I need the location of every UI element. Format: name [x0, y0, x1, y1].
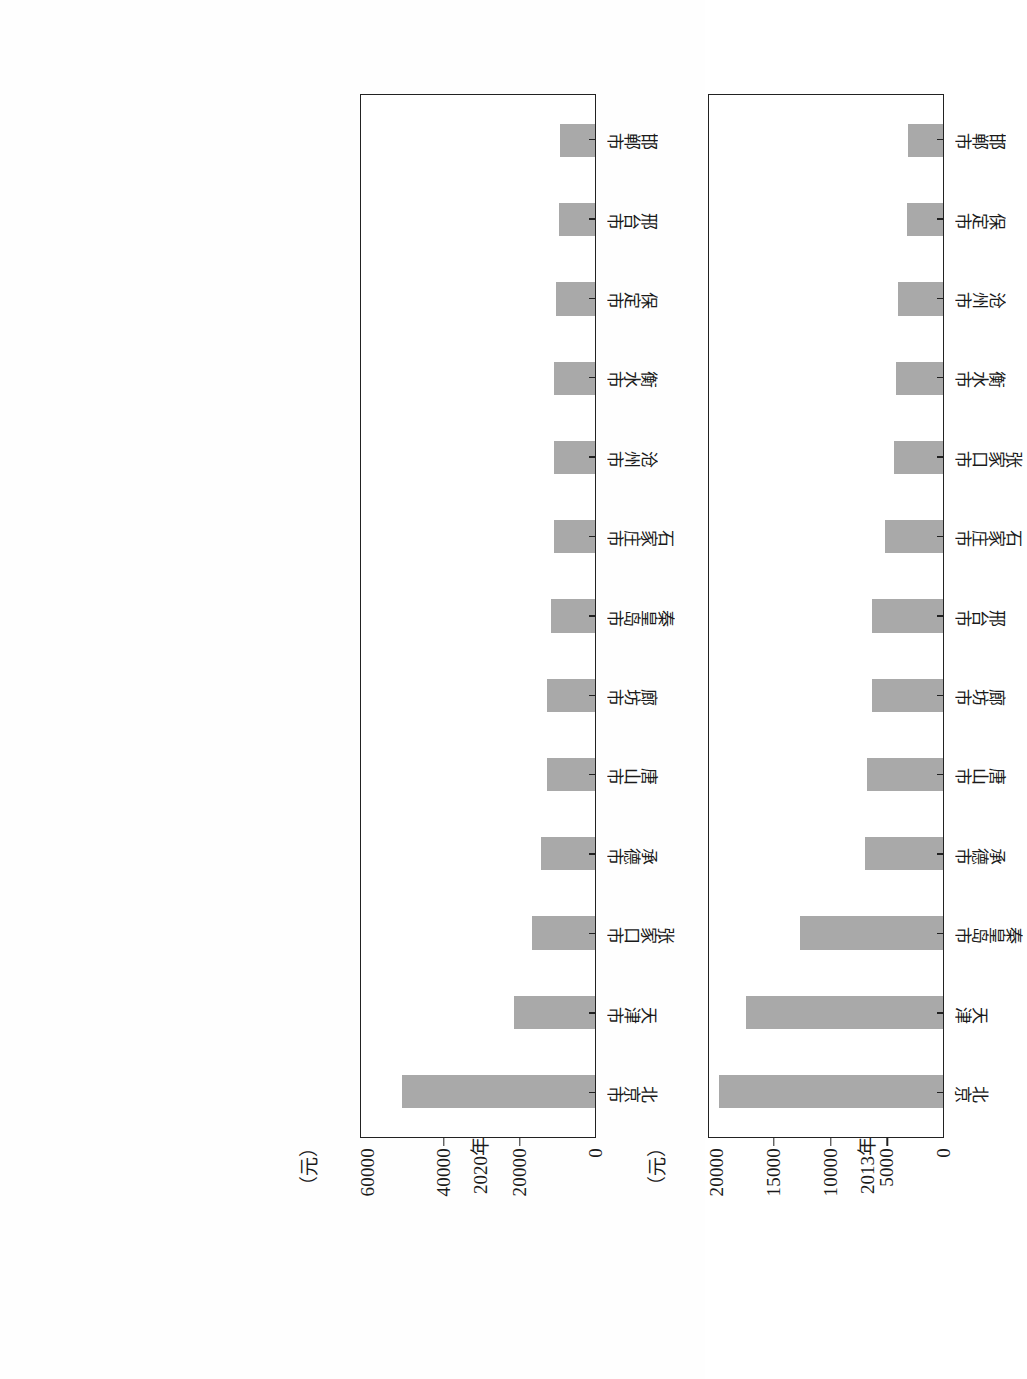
chart-2013-axis-title: 2013年 — [851, 1137, 878, 1194]
x-label-slot: 唐山市 — [598, 735, 682, 814]
y-tick-20000: 20000 — [706, 1138, 728, 1220]
bar-唐山市 — [867, 758, 943, 791]
y-tick-60000: 60000 — [357, 1138, 379, 1220]
x-label-slot: 张家口市 — [598, 894, 682, 973]
bar-slot — [709, 339, 943, 418]
chart-2020-axis-title: 2020年 — [464, 1137, 491, 1194]
bar-slot — [361, 180, 595, 259]
x-label-slot: 保定市 — [946, 179, 1027, 258]
x-label-石家庄市: 石家庄市 — [607, 528, 675, 545]
bar-沧州市 — [898, 282, 943, 315]
bar-slot — [709, 418, 943, 497]
bar-沧州市 — [554, 441, 595, 474]
y-tick-40000: 40000 — [433, 1138, 455, 1220]
bar-slot — [361, 893, 595, 972]
x-label-秦皇岛市: 秦皇岛市 — [607, 607, 675, 624]
y-tick-20000: 20000 — [509, 1138, 531, 1220]
bar-slot — [361, 259, 595, 338]
chart-2020-x-labels: 北京市天津市张家口市承德市唐山市廊坊市秦皇岛市石家庄市沧州市衡水市保定市邢台市邯… — [598, 94, 682, 1138]
x-label-沧州市: 沧州市 — [607, 449, 658, 466]
bar-slot — [361, 339, 595, 418]
bar-slot — [361, 973, 595, 1052]
x-label-唐山市: 唐山市 — [955, 766, 1006, 783]
y-tick-0: 0 — [933, 1138, 955, 1220]
bar-邢台市 — [872, 599, 943, 632]
bar-保定市 — [556, 282, 595, 315]
x-label-邢台市: 邢台市 — [607, 210, 658, 227]
bar-slot — [361, 497, 595, 576]
x-label-slot: 张家口市 — [946, 417, 1027, 496]
x-label-slot: 邯郸市 — [598, 100, 682, 179]
x-label-slot: 邢台市 — [598, 179, 682, 258]
x-label-衡水市: 衡水市 — [607, 369, 658, 386]
bar-北京 — [719, 1075, 943, 1108]
x-label-北京: 北京 — [955, 1084, 989, 1101]
bar-北京市 — [402, 1075, 595, 1108]
x-label-slot: 衡水市 — [946, 338, 1027, 417]
x-label-唐山市: 唐山市 — [607, 766, 658, 783]
x-label-slot: 沧州市 — [946, 259, 1027, 338]
x-label-slot: 秦皇岛市 — [946, 894, 1027, 973]
x-label-slot: 保定市 — [598, 259, 682, 338]
x-label-slot: 廊坊市 — [598, 656, 682, 735]
x-label-保定市: 保定市 — [955, 210, 1006, 227]
y-axis-unit-label: （元） — [294, 1138, 321, 1220]
bar-slot — [709, 576, 943, 655]
bar-slot — [361, 576, 595, 655]
x-label-slot: 邢台市 — [946, 576, 1027, 655]
x-label-slot: 邯郸市 — [946, 100, 1027, 179]
y-tick-5000: 5000 — [876, 1138, 898, 1220]
x-label-slot: 唐山市 — [946, 735, 1027, 814]
bar-slot — [709, 1052, 943, 1131]
chart-2020-bars — [361, 95, 595, 1137]
bar-邯郸市 — [908, 124, 943, 157]
chart-2013-x-labels: 北京天津秦皇岛市承德市唐山市廊坊市邢台市石家庄市张家口市衡水市沧州市保定市邯郸市 — [946, 94, 1027, 1138]
x-label-邯郸市: 邯郸市 — [607, 131, 658, 148]
y-tick-0: 0 — [585, 1138, 607, 1220]
x-label-保定市: 保定市 — [607, 290, 658, 307]
bar-slot — [709, 735, 943, 814]
bar-保定市 — [907, 203, 943, 236]
x-label-廊坊市: 廊坊市 — [955, 687, 1006, 704]
chart-2020-plot-area — [360, 94, 596, 1138]
y-tick-10000: 10000 — [820, 1138, 842, 1220]
bar-邯郸市 — [560, 124, 595, 157]
chart-2013-y-axis: 05000100001500020000（元） — [708, 1138, 944, 1220]
chart-2013: 05000100001500020000（元） 2013年 北京天津秦皇岛市承德… — [700, 80, 1027, 1220]
chart-2020-container: 0200004000060000（元） 2020年 北京市天津市张家口市承德市唐… — [352, 80, 682, 1220]
x-label-北京市: 北京市 — [607, 1084, 658, 1101]
x-label-承德市: 承德市 — [955, 845, 1006, 862]
bar-slot — [709, 497, 943, 576]
bar-衡水市 — [554, 362, 595, 395]
x-label-廊坊市: 廊坊市 — [607, 687, 658, 704]
bar-张家口市 — [532, 916, 595, 949]
bar-秦皇岛市 — [551, 599, 595, 632]
bar-承德市 — [541, 837, 595, 870]
x-label-slot: 廊坊市 — [946, 656, 1027, 735]
x-label-slot: 承德市 — [946, 814, 1027, 893]
bar-廊坊市 — [872, 679, 943, 712]
bar-廊坊市 — [547, 679, 595, 712]
bar-承德市 — [865, 837, 943, 870]
bar-slot — [361, 418, 595, 497]
x-label-slot: 秦皇岛市 — [598, 576, 682, 655]
bar-天津 — [746, 996, 943, 1029]
x-label-石家庄市: 石家庄市 — [955, 528, 1023, 545]
x-label-天津市: 天津市 — [607, 1004, 658, 1021]
x-label-张家口市: 张家口市 — [607, 925, 675, 942]
bar-slot — [361, 814, 595, 893]
bar-slot — [709, 893, 943, 972]
bar-slot — [709, 656, 943, 735]
bar-slot — [709, 101, 943, 180]
x-label-张家口市: 张家口市 — [955, 449, 1023, 466]
bar-衡水市 — [896, 362, 943, 395]
bar-石家庄市 — [885, 520, 944, 553]
chart-2013-plot-area — [708, 94, 944, 1138]
x-label-衡水市: 衡水市 — [955, 369, 1006, 386]
x-label-slot: 北京市 — [598, 1053, 682, 1132]
bar-slot — [709, 180, 943, 259]
bar-slot — [361, 735, 595, 814]
bar-slot — [361, 656, 595, 735]
bar-张家口市 — [894, 441, 944, 474]
